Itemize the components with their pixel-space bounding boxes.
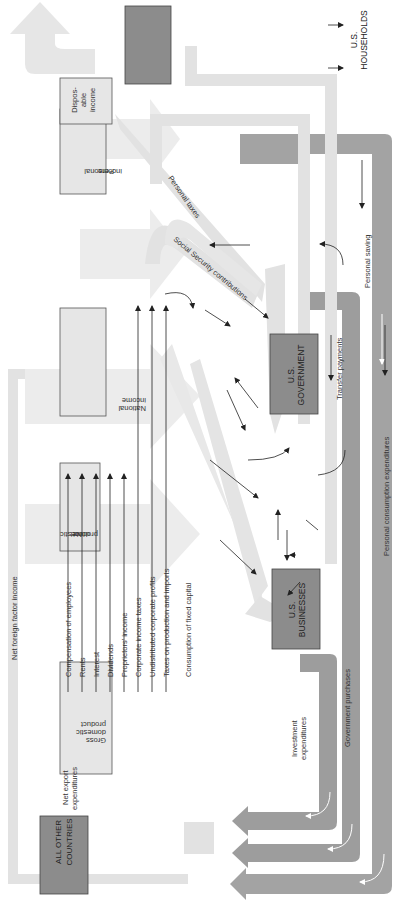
di-label-2: able — [79, 93, 88, 107]
other-countries-label-2: COUNTRIES — [65, 818, 74, 865]
di-label-1: Dispos- — [70, 87, 79, 113]
gdp-to-ndp-arrow — [20, 574, 205, 714]
net-export-label-1: Net export — [61, 769, 70, 805]
consumption-arrowhead — [230, 868, 246, 900]
component-rents: Rents — [78, 657, 87, 677]
component-compensation: Compensation of employees — [64, 582, 73, 677]
other-countries-label-1: ALL OTHER — [54, 820, 63, 864]
component-dividends: Dividends — [106, 644, 115, 677]
income-components: Compensation of employees Rents Interest… — [64, 568, 193, 677]
transfer-up-bar — [150, 114, 310, 126]
net-foreign-factor-income-label: Net foreign factor income — [10, 576, 19, 660]
component-interest: Interest — [92, 651, 101, 677]
personal-saving-bar — [325, 74, 337, 564]
investment-arrowhead — [232, 806, 248, 836]
component-production-taxes: Taxes on production and imports — [162, 568, 171, 677]
gdp-label-3: product — [80, 720, 106, 729]
personal-saving-label: Personal saving — [363, 235, 372, 288]
gdp-band-arrow — [25, 479, 200, 589]
national-income-box — [60, 308, 106, 416]
component-corporate-taxes: Corporate income taxes — [134, 597, 143, 677]
transfer-payments-label: Transfer payments — [335, 338, 344, 400]
government-purchases-label: Government purchases — [343, 669, 352, 747]
ni-to-business-flow-2 — [190, 359, 268, 604]
households-box — [125, 6, 171, 84]
net-export-label-2: expenditures — [70, 767, 79, 810]
ndp-label-3: product — [72, 530, 98, 539]
component-proprietors: Proprietors' income — [120, 613, 129, 677]
nffi-left-leg — [8, 874, 188, 884]
businesses-label-1: U.S. — [287, 602, 297, 619]
di-label-3: income — [88, 88, 97, 112]
component-undistributed: Undistributed corporate profits — [148, 576, 157, 677]
pi-label-2: income — [98, 167, 122, 176]
ni-label-2: income — [122, 396, 146, 405]
government-label-1: U.S. — [286, 367, 296, 384]
personal-taxes-label: Personal taxes — [166, 174, 202, 220]
component-fixed-capital: Consumption of fixed capital — [184, 582, 193, 677]
government-arrowhead — [232, 838, 248, 868]
circular-flow-diagram: Gross domestic product Net domestic prod… — [0, 0, 397, 904]
households-label-1: U.S. — [349, 32, 359, 49]
di-to-households-flow — [10, 2, 95, 74]
businesses-label-2: BUSINESSES — [297, 583, 307, 638]
personal-saving-up — [185, 74, 337, 86]
personal-consumption-label: Personal consumption expenditures — [382, 437, 391, 556]
personal-saving-stub — [185, 46, 197, 86]
government-label-2: GOVERNMENT — [296, 345, 306, 406]
households-label-2: HOUSEHOLDS — [359, 10, 369, 70]
consumption-riser — [240, 134, 305, 164]
investment-label-2: expenditures — [299, 717, 308, 760]
net-export-flow — [184, 822, 214, 854]
ni-band-arrow — [80, 209, 185, 299]
transfer-top-bar — [150, 114, 162, 184]
investment-label-1: Investment — [290, 719, 299, 757]
other-countries-box — [40, 816, 88, 894]
